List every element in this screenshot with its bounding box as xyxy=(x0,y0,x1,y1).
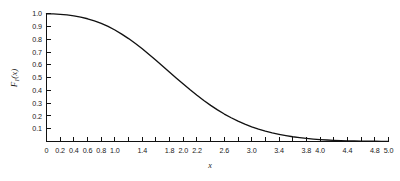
data-curve-f1 xyxy=(47,14,389,142)
y-axis-tick-labels: 0.10.20.30.40.50.60.70.80.91.0 xyxy=(32,9,42,133)
x-axis-tick-labels: 00.20.40.60.81.01.41.82.02.22.63.03.43.8… xyxy=(45,146,394,155)
y-axis-title-text: F1(x) xyxy=(9,69,20,89)
y-tick-label: 0.8 xyxy=(32,35,42,44)
x-tick-label: 5.0 xyxy=(384,146,394,155)
x-tick-label: 0.6 xyxy=(83,146,93,155)
y-axis-ticks xyxy=(47,14,52,129)
y-tick-label: 0.4 xyxy=(32,86,42,95)
y-tick-label: 1.0 xyxy=(32,9,42,18)
x-tick-label: 4.0 xyxy=(315,146,325,155)
y-tick-label: 0.2 xyxy=(32,112,42,121)
x-axis-title: x xyxy=(207,161,212,170)
x-tick-label: 0.4 xyxy=(69,146,79,155)
y-tick-label: 0.5 xyxy=(32,73,42,82)
y-tick-label: 0.9 xyxy=(32,22,42,31)
x-tick-label: 4.8 xyxy=(370,146,380,155)
x-tick-label: 2.0 xyxy=(178,146,188,155)
y-tick-label: 0.6 xyxy=(32,60,42,69)
y-axis-title-arg: (x) xyxy=(9,69,19,79)
x-tick-label: 2.2 xyxy=(192,146,202,155)
x-tick-label: 1.4 xyxy=(137,146,147,155)
x-tick-label: 0.2 xyxy=(55,146,65,155)
y-tick-label: 0.7 xyxy=(32,48,42,57)
y-tick-label: 0.3 xyxy=(32,99,42,108)
x-tick-label: 2.6 xyxy=(219,146,229,155)
y-tick-label: 0.1 xyxy=(32,124,42,133)
x-tick-label: 3.4 xyxy=(274,146,284,155)
y-axis-title: F1(x) xyxy=(9,69,20,89)
x-tick-label: 4.4 xyxy=(343,146,353,155)
x-tick-label: 1.8 xyxy=(165,146,175,155)
x-tick-label: 1.0 xyxy=(110,146,120,155)
x-tick-label: 0 xyxy=(45,146,49,155)
x-tick-label: 3.8 xyxy=(302,146,312,155)
x-tick-label: 0.8 xyxy=(96,146,106,155)
x-tick-label: 3.0 xyxy=(247,146,257,155)
axes-group xyxy=(46,13,389,142)
figure-container: 0.10.20.30.40.50.60.70.80.91.0 00.20.40.… xyxy=(0,0,400,181)
plot-area: 0.10.20.30.40.50.60.70.80.91.0 00.20.40.… xyxy=(0,0,400,181)
